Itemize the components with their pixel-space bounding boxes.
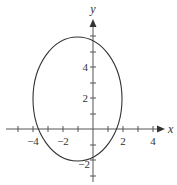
x-tick-label: −2: [57, 135, 69, 147]
x-tick-label: −4: [27, 135, 39, 147]
x-axis-arrow-icon: [157, 126, 165, 133]
x-tick-label: 4: [150, 135, 156, 147]
x-axis-label: x: [167, 122, 174, 136]
y-tick-label: 2: [83, 92, 89, 104]
x-tick-label: 2: [120, 135, 126, 147]
y-tick-label: 4: [83, 61, 89, 73]
y-tick-label: −2: [78, 158, 90, 170]
y-axis-label: y: [89, 2, 96, 16]
ellipse-plot: −4 −2 2 4 4 2 −2 x y: [0, 0, 177, 185]
ellipse-curve: [33, 37, 122, 161]
y-axis-arrow-icon: [90, 19, 97, 27]
